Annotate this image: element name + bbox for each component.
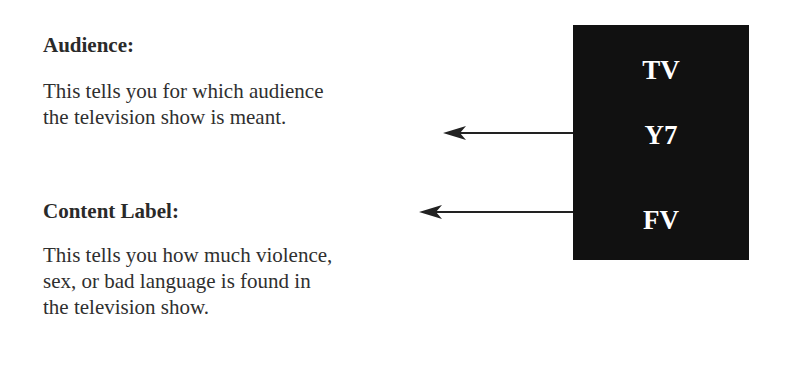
arrows-layer: [0, 0, 786, 374]
arrow-audience-icon: [443, 126, 573, 140]
arrow-content-label-icon: [419, 205, 573, 219]
